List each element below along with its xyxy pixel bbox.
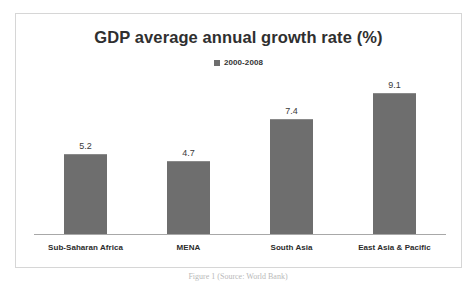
bar-group-mena: 4.7 <box>137 76 240 234</box>
bar-group-east-asia-pacific: 9.1 <box>343 76 446 234</box>
category-label-east-asia-pacific: East Asia & Pacific <box>343 243 446 252</box>
bar-value-label: 9.1 <box>388 81 401 90</box>
category-label-sub-saharan-africa: Sub-Saharan Africa <box>34 243 137 252</box>
bar-value-label: 5.2 <box>79 142 92 151</box>
bar-value-label: 7.4 <box>285 107 298 116</box>
bar-sub-saharan-africa <box>64 154 107 235</box>
legend-item-2000-2008: 2000-2008 <box>214 58 263 67</box>
category-axis-labels: Sub-Saharan Africa MENA South Asia East … <box>34 238 446 256</box>
legend-label: 2000-2008 <box>224 58 263 67</box>
chart-legend: 2000-2008 <box>16 58 461 67</box>
bar-south-asia <box>270 119 313 234</box>
figure-caption: Figure 1 (Source: World Bank) <box>0 272 476 281</box>
category-label-south-asia: South Asia <box>240 243 343 252</box>
x-axis-line <box>34 234 446 235</box>
bar-value-label: 4.7 <box>182 149 195 158</box>
chart-figure: GDP average annual growth rate (%) 2000-… <box>0 0 476 282</box>
square-marker-icon <box>214 60 220 66</box>
chart-frame: GDP average annual growth rate (%) 2000-… <box>15 13 462 268</box>
bar-east-asia-pacific <box>373 93 416 234</box>
chart-title: GDP average annual growth rate (%) <box>16 28 461 47</box>
bars-layer: 5.2 4.7 7.4 9.1 <box>34 76 446 234</box>
bar-group-sub-saharan-africa: 5.2 <box>34 76 137 234</box>
bar-group-south-asia: 7.4 <box>240 76 343 234</box>
bar-mena <box>167 161 210 234</box>
category-label-mena: MENA <box>137 243 240 252</box>
